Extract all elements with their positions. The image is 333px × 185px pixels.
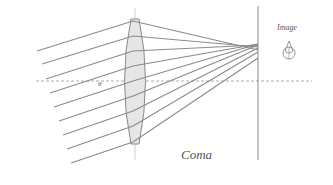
light-ray <box>71 58 258 163</box>
light-ray <box>50 44 258 93</box>
eye-icon <box>283 41 295 59</box>
rays-group <box>37 21 258 163</box>
angle-label: θ <box>98 80 101 88</box>
light-ray <box>67 52 258 149</box>
light-ray <box>59 45 258 121</box>
light-ray <box>54 44 258 107</box>
image-label: Image <box>277 23 297 32</box>
diagram-title: Coma <box>181 147 212 163</box>
